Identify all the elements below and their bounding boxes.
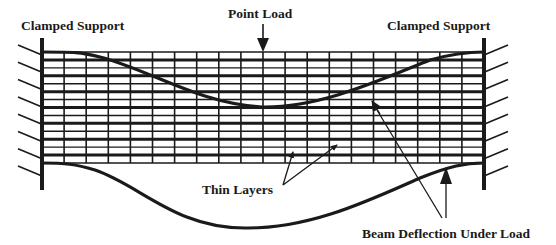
right-support-hatching	[484, 45, 508, 176]
left-clamped-support	[18, 38, 42, 190]
point-load-label: Point Load	[228, 6, 293, 21]
left-support-hatching	[18, 45, 42, 176]
hatch-line	[18, 80, 42, 90]
hatch-line	[484, 45, 508, 55]
hatch-line	[484, 62, 508, 72]
hatch-line	[484, 149, 508, 159]
thin-layers-arrow-2	[283, 145, 337, 185]
hatch-line	[484, 97, 508, 107]
left-support-label: Clamped Support	[21, 18, 125, 33]
hatch-line	[484, 166, 508, 176]
beam-deflection-label: Beam Deflection Under Load	[362, 226, 531, 241]
hatch-line	[484, 80, 508, 90]
thin-layers-label: Thin Layers	[202, 182, 273, 197]
hatch-line	[18, 166, 42, 176]
arrow-down-icon	[257, 38, 269, 52]
thin-layers-callout	[283, 145, 337, 185]
point-load-arrow	[257, 24, 269, 52]
hatch-line	[18, 114, 42, 124]
right-support-label: Clamped Support	[387, 18, 491, 33]
hatch-line	[484, 114, 508, 124]
right-clamped-support	[484, 38, 508, 190]
hatch-line	[18, 62, 42, 72]
hatch-line	[484, 132, 508, 142]
hatch-line	[18, 45, 42, 55]
hatch-line	[18, 149, 42, 159]
hatch-line	[18, 132, 42, 142]
hatch-line	[18, 97, 42, 107]
beam-diagram: Clamped Support Clamped Support Point Lo…	[0, 0, 556, 245]
